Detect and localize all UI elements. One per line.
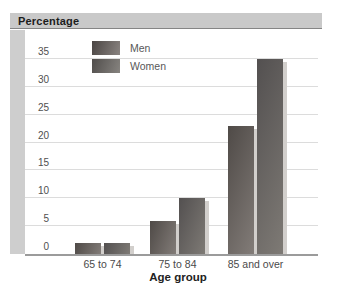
- x-category-1: 75 to 84: [159, 258, 197, 270]
- x-axis-title: Age group: [149, 271, 207, 283]
- legend-label-men: Men: [130, 42, 150, 54]
- bar-men-0: [75, 243, 101, 254]
- women-swatch: [92, 59, 120, 73]
- x-category-0: 65 to 74: [84, 258, 122, 270]
- bar-men-2: [228, 126, 254, 254]
- legend: Men Women: [92, 41, 166, 73]
- y-tick-label-30: 30: [31, 74, 49, 85]
- legend-item-women: Women: [92, 59, 166, 73]
- chart-title-bar: Percentage: [10, 13, 322, 29]
- y-tick-label-35: 35: [31, 46, 49, 57]
- bar-women-2: [257, 59, 283, 254]
- y-tick-label-25: 25: [31, 102, 49, 113]
- bar-women-1: [179, 198, 205, 254]
- y-tick-label-10: 10: [31, 185, 49, 196]
- bar-women-0: [104, 243, 130, 254]
- legend-label-women: Women: [130, 60, 166, 72]
- y-tick-label-0: 0: [31, 241, 49, 252]
- y-tick-label-15: 15: [31, 157, 49, 168]
- y-axis-band: [10, 30, 25, 254]
- plot-area: Men Women 05101520253035: [25, 31, 318, 256]
- bar-men-1: [150, 221, 176, 254]
- y-tick-label-20: 20: [31, 130, 49, 141]
- x-category-2: 85 and over: [228, 258, 283, 270]
- bar-chart: Percentage Men Women 05101520253035 65 t…: [0, 0, 338, 299]
- y-tick-label-5: 5: [31, 213, 49, 224]
- chart-title: Percentage: [18, 15, 79, 27]
- men-swatch: [92, 41, 120, 55]
- legend-item-men: Men: [92, 41, 166, 55]
